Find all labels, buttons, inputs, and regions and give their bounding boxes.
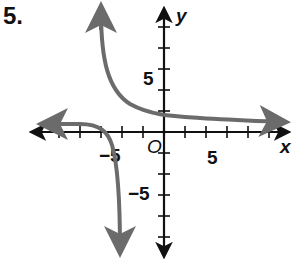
- y-tick-label-neg5: −5: [128, 183, 150, 204]
- x-tick-label-neg5: −5: [99, 145, 121, 166]
- graph: y x O 5 −5 5 −5: [0, 0, 298, 261]
- curve-left-branch: [80, 124, 120, 250]
- curve-right-branch: [101, 11, 283, 122]
- x-axis-label: x: [279, 136, 292, 157]
- y-axis-label: y: [175, 5, 188, 26]
- x-tick-label-5: 5: [207, 147, 218, 168]
- y-tick-label-5: 5: [143, 68, 154, 89]
- origin-label: O: [147, 136, 162, 157]
